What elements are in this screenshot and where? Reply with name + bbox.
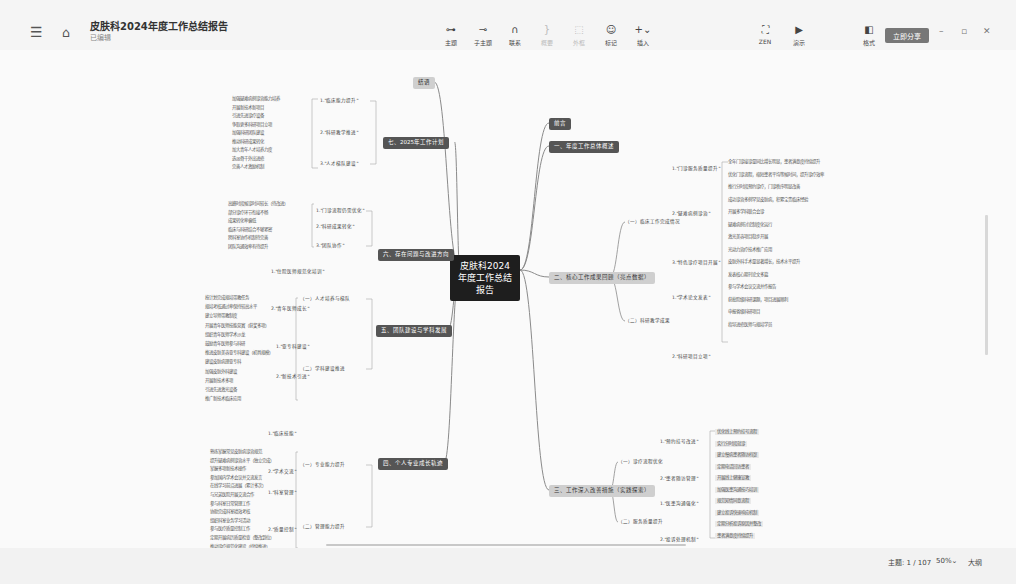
leaf-topic-left[interactable]: 按计划完成规培带教任务 — [205, 296, 249, 300]
subtopic-left[interactable]: （一）人才培养与梯队 — [300, 297, 350, 302]
leaf-topic-right[interactable]: 建立慢病患者随访档案 — [715, 452, 759, 458]
insert-button[interactable]: +⌄插入 — [630, 24, 656, 47]
leaf-topic-left[interactable]: 在线学习前沿进展（累计多次） — [210, 484, 266, 488]
subtopic-left[interactable]: 2."质量控制" — [268, 528, 297, 533]
leaf-topic-right[interactable]: 开展线上健康宣教 — [715, 475, 751, 481]
leaf-topic-left[interactable]: 组织青年医师学术沙龙 — [205, 333, 245, 337]
leaf-topic-right[interactable]: 皮肤外科手术量显著增长，技术水平提升 — [728, 260, 800, 264]
leaf-topic-right[interactable]: 患者满意度持续提升 — [715, 533, 755, 539]
subtopic-right[interactable]: （一）诊疗流程优化 — [618, 460, 663, 465]
leaf-topic-left[interactable]: 推广新技术临床应用 — [205, 397, 241, 401]
home-icon[interactable]: ⌂ — [62, 25, 78, 40]
restore-icon[interactable]: ▫ — [961, 26, 967, 36]
mindmap-canvas[interactable]: 皮肤科2024年度工作总结报告前言一、年度工作总体概述二、核心工作成果回顾（亮点… — [0, 50, 1016, 548]
marker-button[interactable]: ☺标记 — [598, 24, 624, 47]
leaf-topic-left[interactable]: 与兄弟医院开展交流合作 — [210, 493, 254, 497]
subtopic-left[interactable]: 2."科研成果转化" — [316, 225, 355, 230]
leaf-topic-right[interactable]: 规范知情同意流程 — [715, 498, 751, 504]
leaf-topic-left[interactable]: 掌握多项新技术操作 — [210, 467, 246, 471]
leaf-topic-right[interactable]: 参与学术会议交流并作报告 — [728, 285, 776, 289]
subtopic-left[interactable]: （二）管理能力提升 — [300, 525, 345, 530]
subtopic-left[interactable]: 1."住院医师规范化培训" — [271, 270, 325, 275]
leaf-topic-right[interactable]: 实行分时段就诊 — [715, 441, 747, 447]
subtopic-right[interactable]: 3."特色诊疗项目开展" — [672, 261, 721, 266]
leaf-topic-left[interactable]: 加强科研团队建设 — [232, 131, 264, 135]
subtopic-left[interactable]: 3."团队协作" — [316, 244, 345, 249]
leaf-topic-left[interactable]: 完善人才激励机制 — [232, 165, 264, 169]
subtopic-left[interactable]: 1."临床技能" — [268, 432, 297, 437]
leaf-topic-left[interactable]: 争取更多科研项目立项 — [232, 123, 272, 127]
main-topic-left-0[interactable]: 结语 — [413, 77, 435, 89]
leaf-topic-left[interactable]: 跨科室协作机制待完善 — [228, 236, 268, 240]
subtopic-left[interactable]: 1."门诊流程仍需优化" — [316, 209, 365, 214]
leaf-topic-left[interactable]: 组织科室业务学习活动 — [210, 519, 250, 523]
leaf-topic-right[interactable]: 指导进修医师与规培学员 — [728, 323, 772, 327]
subtopic-left[interactable]: 2."学术交流" — [268, 470, 297, 475]
subtopic-right[interactable]: 1."门诊服务质量提升" — [672, 167, 721, 172]
main-topic-left-2[interactable]: 六、存在问题与改进方向 — [378, 249, 454, 261]
leaf-topic-right[interactable]: 推行分时段预约诊疗，门诊秩序明显改善 — [728, 185, 800, 189]
leaf-topic-left[interactable]: 推动科研成果转化 — [232, 140, 264, 144]
leaf-topic-right[interactable]: 发表核心期刊论文多篇 — [728, 273, 768, 277]
leaf-topic-left[interactable]: 开展新技术多项 — [205, 379, 233, 383]
leaf-topic-left[interactable]: 熟练掌握常见皮肤病诊治规范 — [210, 450, 262, 454]
share-button[interactable]: 立即分享 — [885, 28, 929, 43]
subtopic-left[interactable]: 1."科室管理" — [268, 491, 297, 496]
main-topic-right-2[interactable]: 二、核心工作成果回顾（亮点数据） — [549, 272, 655, 284]
outline-button[interactable]: 大纲 — [968, 557, 982, 567]
leaf-topic-right[interactable]: 成功诊治多例罕见皮肤病，积累宝贵临床经验 — [728, 198, 808, 202]
leaf-topic-left[interactable]: 鼓励青年医师参与科研 — [205, 342, 245, 346]
leaf-topic-left[interactable]: 建立导师带教制度 — [205, 314, 237, 318]
leaf-topic-right[interactable]: 开展多学科联合会诊 — [728, 210, 764, 214]
leaf-topic-left[interactable]: 团队沟通效率有待提升 — [228, 245, 268, 249]
subtopic-button[interactable]: ⊸子主题 — [470, 24, 496, 47]
subtopic-right[interactable]: （二）服务质量提升 — [618, 520, 663, 525]
subtopic-right[interactable]: 1."学术论文发表" — [672, 296, 711, 301]
leaf-topic-right[interactable]: 全年门诊接诊量同比增长明显，患者满意度持续提升 — [728, 160, 820, 164]
leaf-topic-left[interactable]: 引进先进诊疗设备 — [232, 114, 264, 118]
document-title[interactable]: 皮肤科2024年度工作总结报告 — [90, 22, 228, 32]
leaf-topic-right[interactable]: 定期分析投诉原因并整改 — [715, 521, 763, 527]
present-button[interactable]: ▶演示 — [786, 24, 812, 47]
leaf-topic-left[interactable]: 推进皮肤美容亚专科建设（初具规模） — [205, 351, 273, 355]
leaf-topic-right[interactable]: 获批院级科研课题，项目进展顺利 — [728, 298, 788, 302]
leaf-topic-left[interactable]: 提升疑难病例诊治水平（独立完成） — [210, 459, 274, 463]
leaf-topic-left[interactable]: 建设皮肤病理亚专科 — [205, 360, 241, 364]
subtopic-right[interactable]: 1."预约挂号改进" — [660, 440, 699, 445]
subtopic-left[interactable]: 3."人才梯队建设" — [320, 162, 359, 167]
leaf-topic-left[interactable]: 定期开展病历质量检查（整改到位） — [210, 536, 274, 540]
leaf-topic-right[interactable]: 激光美容项目稳步开展 — [728, 235, 768, 239]
leaf-topic-right[interactable]: 优化线上预约挂号流程 — [715, 429, 759, 435]
boundary-button[interactable]: ⬚外框 — [566, 24, 592, 47]
vertical-scrollbar[interactable] — [985, 215, 988, 355]
close-icon[interactable]: ✕ — [983, 26, 991, 36]
summary-button[interactable]: }概要 — [534, 24, 560, 47]
leaf-topic-right[interactable]: 建立投诉快速响应机制 — [715, 510, 759, 516]
main-topic-right-1[interactable]: 一、年度工作总体概述 — [549, 141, 619, 153]
zoom-level-dropdown[interactable]: 50%⌄ — [936, 557, 957, 565]
main-topic-right-0[interactable]: 前言 — [549, 118, 571, 130]
leaf-topic-left[interactable]: 引进先进激光设备 — [205, 388, 237, 392]
leaf-topic-left[interactable]: 参与医疗质量控制工作 — [210, 527, 250, 531]
leaf-topic-left[interactable]: 临床与科研结合不够紧密 — [228, 228, 272, 232]
subtopic-left[interactable]: （二）学科建设推进 — [300, 367, 345, 372]
minimize-icon[interactable]: – — [939, 26, 944, 36]
leaf-topic-left[interactable]: 加强皮肤外科建设 — [205, 370, 237, 374]
leaf-topic-left[interactable]: 成果转化率偏低 — [228, 219, 256, 223]
relation-button[interactable]: ∩联系 — [502, 24, 528, 47]
main-topic-right-3[interactable]: 三、工作深入改善措施（实践探索） — [549, 485, 655, 497]
subtopic-left[interactable]: 1."临床能力提升" — [320, 99, 359, 104]
leaf-topic-right[interactable]: 申报省级科研项目 — [728, 310, 760, 314]
subtopic-left[interactable]: 2."新技术引进" — [276, 375, 310, 380]
subtopic-right[interactable]: 2."投诉处理机制" — [660, 538, 699, 543]
leaf-topic-left[interactable]: 高峰时段候诊时间较长（待改进） — [228, 202, 288, 206]
leaf-topic-left[interactable]: 参与科室日常管理工作 — [210, 502, 250, 506]
subtopic-left[interactable]: 2."科研教学推进" — [320, 131, 359, 136]
leaf-topic-left[interactable]: 加大青年人才培养力度 — [232, 148, 272, 152]
leaf-topic-right[interactable]: 加强医患沟通技巧培训 — [715, 487, 759, 493]
main-topic-left-3[interactable]: 五、团队建设与学科发展 — [376, 325, 452, 337]
fullscreen-button[interactable]: ⛶ZEN — [752, 24, 778, 47]
horizontal-scrollbar[interactable] — [326, 544, 686, 546]
subtopic-right[interactable]: 2."科研项目立项" — [672, 355, 711, 360]
leaf-topic-right[interactable]: 定期电话回访患者 — [715, 464, 751, 470]
